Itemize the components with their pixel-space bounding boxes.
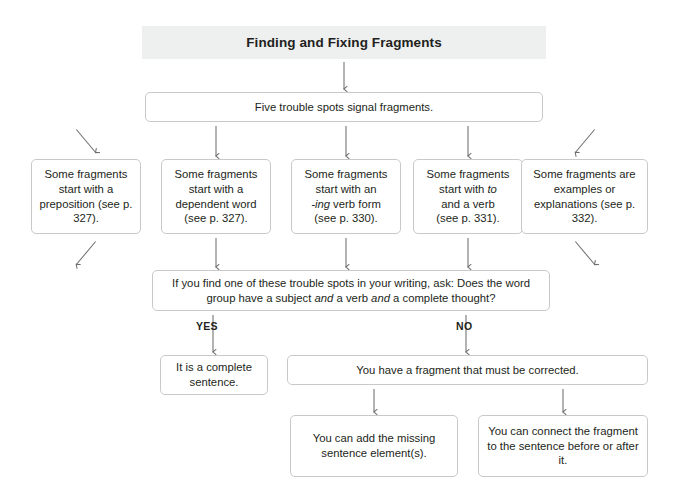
frag4-line1: Some fragments <box>427 168 510 180</box>
question-and-1: and <box>315 292 334 304</box>
question-post: a complete thought? <box>390 292 496 304</box>
question-and-2: and <box>371 292 390 304</box>
frag3-line3-rest: verb form <box>330 198 381 210</box>
node-fragment-to-verb: Some fragments start with to and a verb … <box>413 159 523 234</box>
node-decision-question-label: If you find one of these trouble spots i… <box>159 276 543 305</box>
node-fragment-examples: Some fragments are examples or explanati… <box>521 159 648 234</box>
node-complete-sentence: It is a complete sentence. <box>160 355 268 395</box>
frag4-line2-pre: start with <box>439 183 487 195</box>
node-fragment-examples-label: Some fragments are examples or explanati… <box>528 167 641 225</box>
frag3-line4: (see p. 330). <box>314 212 377 224</box>
frag3-line1: Some fragments <box>305 168 388 180</box>
branch-label-yes: YES <box>196 320 218 332</box>
node-fragment-preposition: Some fragments start with a preposition … <box>31 159 141 234</box>
node-fragment-dependent-word: Some fragments start with a dependent wo… <box>161 159 271 234</box>
frag4-italic: to <box>487 183 496 195</box>
node-fragment-ing-verb-label: Some fragments start with an -ing verb f… <box>298 167 394 225</box>
frag4-line3: and a verb <box>441 198 494 210</box>
node-has-fragment-label: You have a fragment that must be correct… <box>294 363 641 378</box>
frag3-line2: start with an <box>316 183 377 195</box>
node-fragment-dependent-word-label: Some fragments start with a dependent wo… <box>168 167 264 225</box>
frag3-italic: -ing <box>311 198 330 210</box>
node-trouble-spots-label: Five trouble spots signal fragments. <box>152 100 536 115</box>
chart-title-band: Finding and Fixing Fragments <box>142 26 546 59</box>
branch-label-no: NO <box>456 320 472 332</box>
node-fix-connect-sentence-label: You can connect the fragment to the sent… <box>485 424 641 468</box>
node-decision-question: If you find one of these trouble spots i… <box>152 270 550 311</box>
question-mid: a verb <box>333 292 371 304</box>
node-trouble-spots: Five trouble spots signal fragments. <box>145 92 543 122</box>
node-fix-connect-sentence: You can connect the fragment to the sent… <box>478 415 648 477</box>
node-fragment-to-verb-label: Some fragments start with to and a verb … <box>420 167 516 225</box>
page-title: Finding and Fixing Fragments <box>246 35 442 50</box>
fragments-flowchart: Finding and Fixing Fragments Five troubl… <box>0 0 684 493</box>
node-fragment-preposition-label: Some fragments start with a preposition … <box>38 167 134 225</box>
node-fix-add-element: You can add the missing sentence element… <box>290 415 458 477</box>
node-fix-add-element-label: You can add the missing sentence element… <box>297 431 451 460</box>
frag4-line4: (see p. 331). <box>436 212 499 224</box>
node-fragment-ing-verb: Some fragments start with an -ing verb f… <box>291 159 401 234</box>
node-has-fragment: You have a fragment that must be correct… <box>287 355 648 385</box>
node-complete-sentence-label: It is a complete sentence. <box>167 360 261 389</box>
